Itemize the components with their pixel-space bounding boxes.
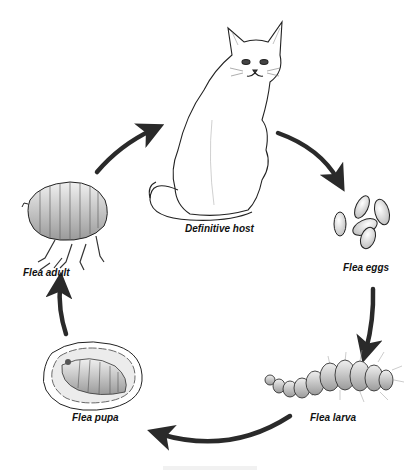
arrow-host-to-eggs <box>278 133 338 180</box>
label-flea-pupa: Flea pupa <box>72 412 119 423</box>
flea-eggs-icon <box>334 194 392 251</box>
footer-divider <box>163 466 257 470</box>
flea-larva-icon <box>265 350 404 402</box>
arrow-larva-to-pupa <box>160 416 290 441</box>
label-flea-larva: Flea larva <box>310 412 356 423</box>
label-flea-eggs: Flea eggs <box>343 262 389 273</box>
label-definitive-host: Definitive host <box>185 223 254 234</box>
label-flea-adult: Flea adult <box>23 267 70 278</box>
arrow-adult-to-host <box>97 130 152 172</box>
cat-icon <box>149 22 282 220</box>
flea-adult-icon <box>22 182 107 270</box>
flea-pupa-icon <box>43 342 142 410</box>
arrow-eggs-to-larva <box>366 289 373 350</box>
flea-life-cycle-diagram <box>0 0 418 472</box>
arrow-pupa-to-adult <box>60 285 66 334</box>
